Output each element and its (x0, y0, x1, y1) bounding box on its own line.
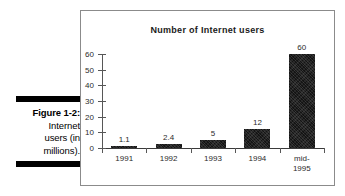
bar-value-label: 60 (297, 43, 306, 52)
x-tick-label: 1991 (102, 154, 146, 164)
x-tick-label: mid- 1995 (280, 154, 324, 174)
y-tick-label: 10 (85, 128, 94, 137)
bar (200, 140, 226, 148)
x-tick (280, 148, 281, 153)
caption-rule-top (16, 96, 80, 102)
y-tick: 40 (98, 85, 106, 86)
x-axis-line (102, 148, 324, 149)
figure-frame: Number of Internet users 0102030405060 1… (80, 10, 335, 186)
y-tick: 50 (98, 70, 106, 71)
x-tick (102, 148, 103, 153)
x-tick (191, 148, 192, 153)
y-tick: 30 (98, 101, 106, 102)
bar-value-label: 1.1 (119, 135, 130, 144)
bar (289, 54, 315, 148)
bar (244, 129, 270, 148)
x-tick (235, 148, 236, 153)
x-tick (324, 148, 325, 153)
figure-number-label: Figure 1-2: (16, 107, 80, 120)
y-tick: 60 (98, 54, 106, 55)
bar-value-label: 12 (253, 118, 262, 127)
chart-title: Number of Internet users (81, 25, 334, 35)
caption-rule-bottom (16, 161, 80, 167)
x-tick-label: 1992 (146, 154, 190, 164)
y-tick-label: 50 (85, 65, 94, 74)
bar (111, 146, 137, 148)
x-tick-label: 1993 (191, 154, 235, 164)
bar-value-label: 2.4 (163, 133, 174, 142)
bar-value-label: 5 (211, 129, 215, 138)
y-tick-label: 20 (85, 112, 94, 121)
y-tick-label: 30 (85, 97, 94, 106)
y-tick-label: 60 (85, 50, 94, 59)
caption-text: Figure 1-2: Internet users (in millions)… (16, 107, 80, 157)
caption-line-3: millions). (16, 145, 80, 158)
y-tick-label: 40 (85, 81, 94, 90)
figure-page: Figure 1-2: Internet users (in millions)… (0, 0, 345, 196)
caption-line-1: Internet (16, 120, 80, 133)
y-tick-label: 0 (90, 144, 94, 153)
x-tick (146, 148, 147, 153)
bar-chart-plot-area: 0102030405060 1.12.451260 19911992199319… (102, 54, 324, 158)
figure-caption-block: Figure 1-2: Internet users (in millions)… (16, 96, 80, 167)
y-tick: 10 (98, 132, 106, 133)
y-tick: 20 (98, 117, 106, 118)
bar (156, 144, 182, 148)
x-tick-label: 1994 (235, 154, 279, 164)
caption-line-2: users (in (16, 132, 80, 145)
